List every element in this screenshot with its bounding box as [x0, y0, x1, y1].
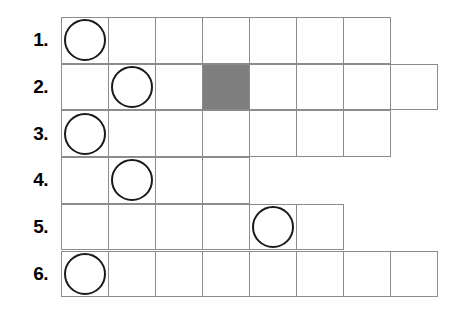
grid-cell[interactable] [108, 17, 156, 64]
row-label-6: 6. [8, 263, 48, 285]
grid-cell[interactable] [108, 110, 156, 157]
grid-row [61, 204, 343, 250]
circle-token-icon[interactable] [64, 19, 106, 61]
grid-cell[interactable] [61, 157, 109, 204]
grid-row [61, 157, 249, 203]
grid-cell[interactable] [296, 64, 344, 111]
grid-cell[interactable] [202, 251, 250, 298]
row-label-2: 2. [8, 76, 48, 98]
grid-cell[interactable] [390, 251, 438, 298]
grid-cell[interactable] [202, 64, 250, 111]
grid-cell[interactable] [202, 110, 250, 157]
grid-cell[interactable] [108, 251, 156, 298]
grid-cell[interactable] [343, 110, 391, 157]
grid-cell[interactable] [61, 64, 109, 111]
grid-cell[interactable] [390, 64, 438, 111]
grid-row [61, 110, 390, 156]
grid-cell[interactable] [61, 204, 109, 251]
grid-cell[interactable] [108, 204, 156, 251]
grid-cell[interactable] [202, 157, 250, 204]
grid-cell[interactable] [155, 204, 203, 251]
grid-row [61, 251, 437, 297]
grid-cell[interactable] [155, 17, 203, 64]
row-label-1: 1. [8, 29, 48, 51]
grid-cell[interactable] [61, 110, 109, 157]
grid-cell[interactable] [155, 110, 203, 157]
circle-token-icon[interactable] [111, 66, 153, 108]
grid-cell[interactable] [343, 251, 391, 298]
worksheet-canvas: 1.2.3.4.5.6. [0, 0, 472, 311]
grid-cell[interactable] [249, 204, 297, 251]
grid-cell[interactable] [108, 64, 156, 111]
grid-cell[interactable] [249, 110, 297, 157]
circle-token-icon[interactable] [64, 253, 106, 295]
grid-cell[interactable] [296, 204, 344, 251]
grid-cell[interactable] [155, 64, 203, 111]
row-label-5: 5. [8, 216, 48, 238]
circle-token-icon[interactable] [111, 159, 153, 201]
grid-cell[interactable] [249, 251, 297, 298]
grid-cell[interactable] [155, 157, 203, 204]
grid-cell[interactable] [249, 17, 297, 64]
circle-token-icon[interactable] [64, 113, 106, 155]
grid-cell[interactable] [61, 251, 109, 298]
grid-cell[interactable] [296, 17, 344, 64]
grid-cell[interactable] [343, 17, 391, 64]
grid-cell[interactable] [202, 204, 250, 251]
grid-cell[interactable] [296, 251, 344, 298]
grid-cell[interactable] [296, 110, 344, 157]
row-label-3: 3. [8, 123, 48, 145]
grid-cell[interactable] [61, 17, 109, 64]
grid-cell[interactable] [108, 157, 156, 204]
grid-row [61, 64, 437, 110]
grid-cell[interactable] [202, 17, 250, 64]
circle-token-icon[interactable] [252, 206, 294, 248]
grid-cell[interactable] [343, 64, 391, 111]
row-label-4: 4. [8, 169, 48, 191]
grid-cell[interactable] [155, 251, 203, 298]
grid-cell[interactable] [249, 64, 297, 111]
grid-row [61, 17, 390, 63]
